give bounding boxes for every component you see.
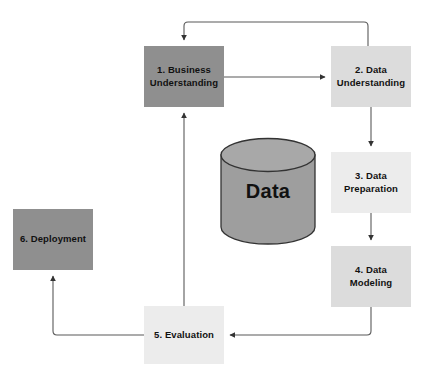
edge-data-understanding-to-business-feedback — [184, 22, 368, 46]
data-store-cylinder: Data — [219, 137, 317, 245]
node-deployment[interactable]: 6. Deployment — [13, 209, 93, 270]
data-store-label: Data — [219, 137, 317, 245]
node-deployment-label-line1: 6. Deployment — [20, 233, 86, 246]
crisp-dm-diagram: 1. Business Understanding 2. Data Unders… — [0, 0, 435, 376]
node-data-understanding-label-line1: 2. Data — [337, 64, 405, 77]
node-data-understanding-label-line2: Understanding — [337, 77, 405, 90]
node-business-understanding-label-line2: Understanding — [150, 77, 218, 90]
node-data-preparation-label-line1: 3. Data — [344, 170, 398, 183]
edge-modeling-to-evaluation — [230, 307, 371, 335]
edge-evaluation-to-deployment — [53, 276, 144, 335]
node-data-modeling[interactable]: 4. Data Modeling — [331, 246, 411, 307]
node-data-modeling-label-line1: 4. Data Modeling — [333, 264, 409, 290]
node-data-preparation[interactable]: 3. Data Preparation — [331, 152, 411, 213]
node-evaluation[interactable]: 5. Evaluation — [144, 306, 224, 364]
node-business-understanding-label-line1: 1. Business — [150, 64, 218, 77]
node-evaluation-label-line1: 5. Evaluation — [154, 329, 214, 342]
node-data-understanding[interactable]: 2. Data Understanding — [331, 46, 411, 107]
node-data-preparation-label-line2: Preparation — [344, 183, 398, 196]
node-business-understanding[interactable]: 1. Business Understanding — [144, 46, 224, 107]
